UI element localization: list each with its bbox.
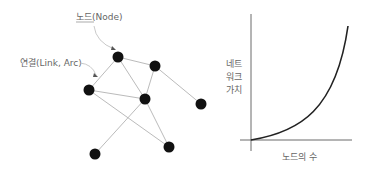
network-diagram: 노드(Node) 연결(Link, Arc) 네트 워크 가치 노드의 수	[0, 0, 374, 172]
edge	[89, 90, 169, 147]
node	[150, 61, 161, 72]
node	[164, 142, 175, 153]
network-nodes	[84, 52, 207, 160]
node	[196, 99, 207, 110]
link-label: 연결(Link, Arc)	[20, 58, 82, 68]
edge	[155, 66, 201, 104]
node	[113, 52, 124, 63]
ylabel-line-3: 가치	[226, 84, 242, 95]
node-arrowhead-icon	[111, 46, 116, 50]
network-edges	[89, 57, 201, 154]
link-arrow-icon	[80, 63, 96, 75]
edge	[89, 57, 118, 90]
value-graph: 네트 워크 가치 노드의 수	[226, 14, 352, 162]
edge	[118, 57, 145, 99]
node	[84, 85, 95, 96]
edge	[118, 57, 155, 66]
node-arrow-icon	[94, 26, 114, 49]
ylabel-line-2: 워크	[226, 72, 242, 82]
edge	[95, 99, 145, 154]
ylabel-line-1: 네트	[226, 59, 242, 69]
node	[90, 149, 101, 160]
edge	[145, 99, 169, 147]
edge	[89, 90, 145, 99]
growth-curve	[251, 26, 348, 140]
xlabel: 노드의 수	[282, 152, 317, 162]
node	[140, 94, 151, 105]
node-label: 노드(Node)	[76, 12, 123, 22]
